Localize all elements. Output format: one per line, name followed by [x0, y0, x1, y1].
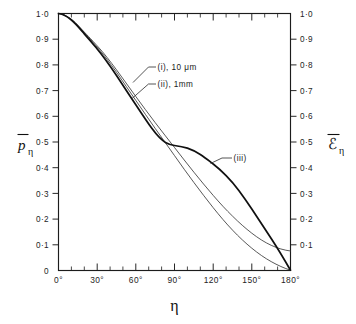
y-right-tick-label-0-5: 0·5	[300, 138, 313, 147]
y-left-tick-label-1-0: 1·0	[36, 10, 49, 19]
x-tick-label-60: 60°	[129, 275, 143, 285]
y-left-tick-label-0-4: 0·4	[36, 164, 49, 173]
curve-i-label: (i), 10 μm	[158, 63, 197, 72]
y-right-tick-label-0-7: 0·7	[300, 87, 313, 96]
y-left-tick-label-0-5: 0·5	[36, 138, 49, 147]
y-axis-left-title-symbol: p	[17, 137, 26, 153]
y-left-tick-label-0-6: 0·6	[36, 112, 49, 121]
y-left-tick-label-0-8: 0·8	[36, 61, 49, 70]
x-tick-label-0: 0°	[54, 275, 63, 285]
y-axis-left-title: p η	[17, 135, 33, 158]
y-axis-right-title: ℰ η	[328, 135, 345, 157]
y-left-tick-label-0: 0	[44, 267, 49, 276]
x-tick-label-90: 90°	[168, 275, 182, 285]
y-right-tick-label-0-2: 0·2	[300, 215, 313, 224]
y-axis-left-title-subscript: η	[28, 146, 33, 157]
leader-line-ii-diagonal	[132, 84, 149, 99]
x-axis-tick-labels: 0° 30° 60° 90° 120° 150° 180°	[54, 275, 300, 285]
y-left-tick-label-0-2: 0·2	[36, 215, 49, 224]
y-right-tick-label-0-8: 0·8	[300, 61, 313, 70]
y-left-tick-label-0-9: 0·9	[36, 35, 49, 44]
y-axis-left-ticks	[53, 39, 59, 245]
y-axis-right-title-symbol: ℰ	[328, 136, 337, 152]
x-tick-label-30: 30°	[90, 275, 104, 285]
y-right-tick-label-0-9: 0·9	[300, 35, 313, 44]
leader-line-iii-diagonal	[211, 158, 223, 164]
chart-svg: 1·0 0·9 0·8 0·7 0·6 0·5 0·4 0·3 0·2 0·1 …	[0, 0, 356, 324]
curve-ii-label: (ii), 1mm	[158, 80, 194, 89]
figure-container: 1·0 0·9 0·8 0·7 0·6 0·5 0·4 0·3 0·2 0·1 …	[0, 0, 356, 324]
x-tick-label-180: 180°	[281, 275, 300, 285]
y-axis-left-tick-labels: 1·0 0·9 0·8 0·7 0·6 0·5 0·4 0·3 0·2 0·1 …	[36, 10, 49, 276]
x-axis-major-ticks	[59, 264, 291, 271]
annotation-curve-iii: (iii)	[211, 154, 247, 164]
y-axis-right-title-subscript: η	[339, 145, 344, 156]
curve-ii-1mm	[59, 14, 291, 271]
y-axis-right-tick-labels: 1·0 0·9 0·8 0·7 0·6 0·5 0·4 0·3 0·2 0·1	[300, 10, 313, 250]
y-right-tick-label-0-1: 0·1	[300, 241, 313, 250]
y-right-tick-label-1-0: 1·0	[300, 10, 313, 19]
y-left-tick-label-0-3: 0·3	[36, 190, 49, 199]
x-axis-title: η	[170, 297, 178, 315]
y-right-tick-label-0-4: 0·4	[300, 164, 313, 173]
x-tick-label-120: 120°	[204, 275, 223, 285]
annotation-curve-ii: (ii), 1mm	[132, 80, 193, 99]
curve-iii-label: (iii)	[234, 154, 247, 163]
y-left-tick-label-0-1: 0·1	[36, 241, 49, 250]
leader-line-i-diagonal	[133, 67, 149, 83]
y-left-tick-label-0-7: 0·7	[36, 87, 49, 96]
x-tick-label-150: 150°	[242, 275, 261, 285]
y-right-tick-label-0-6: 0·6	[300, 112, 313, 121]
y-right-tick-label-0-3: 0·3	[300, 190, 313, 199]
x-axis-top-ticks	[71, 14, 277, 21]
y-axis-right-ticks	[291, 39, 297, 245]
curve-iii	[59, 14, 291, 271]
plot-frame	[59, 14, 291, 271]
